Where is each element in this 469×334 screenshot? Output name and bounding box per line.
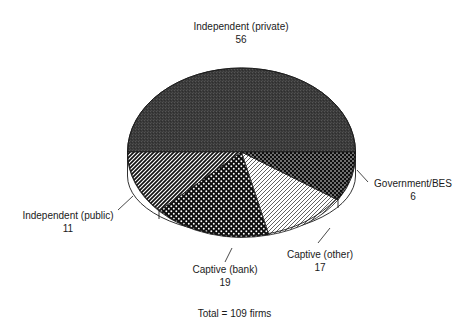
label-captive-other-value: 17 (252, 262, 388, 275)
pie-top-face (127, 68, 355, 237)
label-independent-private-value: 56 (137, 34, 345, 47)
label-independent-public-name: Independent (public) (22, 210, 113, 221)
label-independent-public-value: 11 (6, 223, 130, 236)
label-independent-public: Independent (public) 11 (6, 210, 130, 235)
leader-line-captive-bank (225, 248, 232, 262)
pie-chart: Independent (private) 56 Independent (pu… (0, 0, 469, 334)
label-captive-other-name: Captive (other) (287, 249, 353, 260)
leader-line-independent-public (118, 196, 133, 210)
leader-line-captive-other (318, 228, 330, 243)
label-captive-bank-name: Captive (bank) (192, 264, 257, 275)
label-independent-private: Independent (private) 56 (137, 21, 345, 46)
label-government-bes-value: 6 (357, 191, 469, 204)
pie-slice-independent-private (128, 68, 356, 152)
label-government-bes: Government/BES 6 (357, 178, 469, 203)
chart-caption: Total = 109 firms (0, 308, 469, 319)
label-captive-bank-value: 19 (157, 277, 293, 290)
label-captive-other: Captive (other) 17 (252, 249, 388, 274)
label-independent-private-name: Independent (private) (193, 21, 288, 32)
label-government-bes-name: Government/BES (374, 178, 452, 189)
